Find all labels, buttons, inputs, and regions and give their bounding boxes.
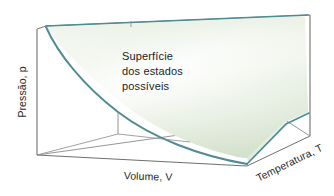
volume-axis-label: Volume, V — [124, 169, 173, 182]
pressure-axis-label-text: Pressão, p — [16, 66, 28, 117]
states-surface — [37, 15, 309, 164]
volume-axis-label-text: Volume, V — [124, 169, 173, 182]
surface-sheet-shading — [46, 16, 308, 158]
box-roof-left-edge — [37, 26, 46, 29]
caption-line-2: dos estados — [122, 65, 183, 77]
figure-canvas: Superfície dos estados possíveis Pressão… — [0, 0, 334, 196]
base-guide-line-left — [37, 134, 118, 155]
caption-line-3: possíveis — [122, 80, 170, 92]
caption-line-1: Superfície — [122, 50, 173, 62]
pressure-axis-label: Pressão, p — [16, 66, 28, 117]
thermodynamic-surface-figure: Superfície dos estados possíveis Pressão… — [0, 0, 334, 196]
